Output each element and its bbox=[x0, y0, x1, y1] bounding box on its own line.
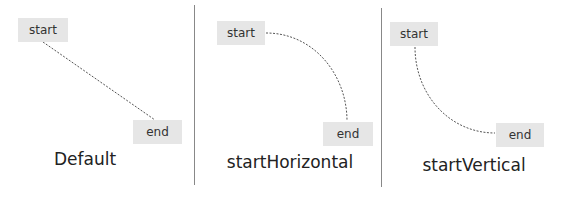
end-node-default[interactable]: end bbox=[133, 120, 182, 144]
connector-start-vertical bbox=[415, 47, 495, 133]
panel-divider-2 bbox=[381, 8, 382, 187]
end-node-start-horizontal[interactable]: end bbox=[323, 122, 373, 146]
start-node-start-horizontal[interactable]: start bbox=[217, 21, 265, 45]
caption-start-horizontal: startHorizontal bbox=[220, 152, 360, 172]
connector-styles-diagram: start end Default start end startHorizon… bbox=[0, 0, 566, 198]
end-node-start-vertical[interactable]: end bbox=[496, 123, 544, 147]
panel-divider-1 bbox=[194, 5, 195, 185]
start-node-start-vertical[interactable]: start bbox=[390, 22, 438, 46]
caption-default: Default bbox=[40, 149, 130, 169]
caption-start-vertical: startVertical bbox=[414, 155, 534, 175]
connector-default bbox=[43, 42, 155, 120]
connector-start-horizontal bbox=[266, 33, 347, 121]
start-node-default[interactable]: start bbox=[18, 18, 68, 42]
